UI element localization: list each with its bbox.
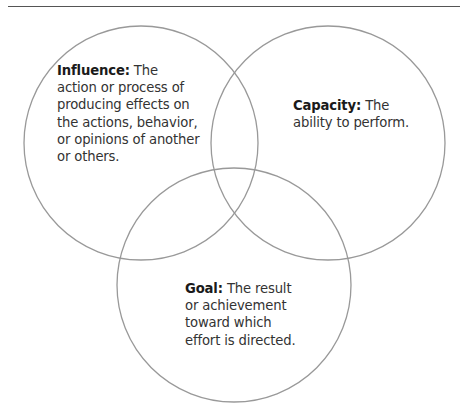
influence-term: Influence:: [57, 63, 130, 78]
goal-term: Goal:: [185, 281, 223, 296]
goal-line-3: toward which: [185, 314, 296, 331]
capacity-line-1: The: [365, 98, 389, 113]
influence-line-6: or others.: [57, 148, 199, 165]
capacity-line-2: ability to perform.: [293, 114, 409, 131]
capacity-term: Capacity:: [293, 98, 361, 113]
capacity-circle: [211, 26, 445, 260]
goal-first-line: Goal: The result: [185, 280, 296, 297]
goal-line-4: effort is directed.: [185, 332, 296, 349]
goal-line-1: The result: [227, 281, 292, 296]
capacity-first-line: Capacity: The: [293, 97, 409, 114]
goal-line-2: or achievement: [185, 297, 296, 314]
goal-definition: Goal: The result or achievement toward w…: [185, 280, 296, 349]
influence-first-line: Influence: The: [57, 62, 199, 79]
influence-line-4: the actions, behavior,: [57, 114, 199, 131]
influence-line-1: The: [134, 63, 158, 78]
influence-line-5: or opinions of another: [57, 131, 199, 148]
capacity-definition: Capacity: The ability to perform.: [293, 97, 409, 131]
influence-definition: Influence: The action or process of prod…: [57, 62, 199, 165]
influence-line-2: action or process of: [57, 79, 199, 96]
influence-line-3: producing effects on: [57, 96, 199, 113]
